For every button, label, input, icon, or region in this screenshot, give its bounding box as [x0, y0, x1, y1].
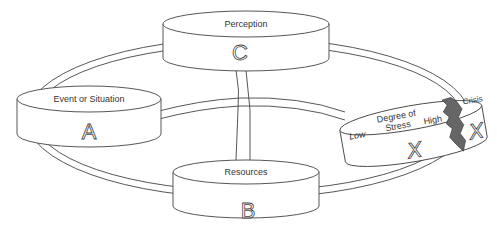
node-x-stress: Low Degree of Stress High Crisis X X: [338, 92, 492, 174]
node-c-perception: Perception C: [163, 11, 329, 71]
cross-connectors: [155, 70, 345, 160]
node-b-resources: Resources B: [173, 160, 319, 223]
letter-a: A: [82, 119, 97, 144]
abcx-diagram: Perception C Event or Situation A Resour…: [0, 0, 497, 231]
node-a-event: Event or Situation A: [17, 86, 161, 147]
letter-c: C: [232, 40, 248, 65]
letter-b: B: [241, 198, 256, 223]
event-label: Event or Situation: [53, 94, 124, 104]
resources-label: Resources: [224, 167, 268, 177]
perception-label: Perception: [224, 19, 267, 29]
